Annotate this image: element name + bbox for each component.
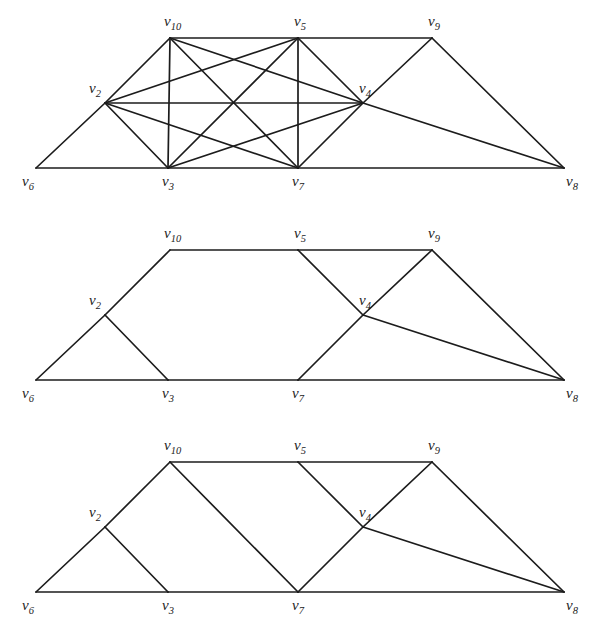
graph-top-svg: v6v3v7v8v2v4v10v5v9 — [0, 0, 595, 210]
vertex-label-v3-bottom: v3 — [162, 597, 174, 616]
graph-edge-v5-v4 — [298, 250, 363, 315]
graph-edge-v10-v3 — [168, 38, 170, 168]
graph-panel-top: v6v3v7v8v2v4v10v5v9 — [0, 0, 595, 210]
vertex-label-v8-top: v8 — [566, 173, 579, 192]
graph-edge-v5-v4 — [298, 462, 363, 527]
vertex-label-v5-bottom: v5 — [294, 437, 306, 456]
vertex-label-v8-middle: v8 — [566, 385, 579, 404]
vertex-label-v7-bottom: v7 — [292, 597, 305, 616]
graph-edge-v2-v10 — [105, 250, 170, 315]
vertex-label-v3-top: v3 — [162, 173, 174, 192]
vertex-label-v6-middle: v6 — [22, 385, 35, 404]
vertex-label-v7-middle: v7 — [292, 385, 305, 404]
graph-bottom-svg: v6v3v7v8v2v4v10v5v9 — [0, 424, 595, 634]
graph-edge-v4-v9 — [363, 38, 432, 103]
graph-edge-v5-v4 — [298, 38, 363, 103]
vertex-label-v3-middle: v3 — [162, 385, 174, 404]
graph-middle-edges — [36, 250, 564, 380]
vertex-label-v2-top: v2 — [89, 80, 102, 99]
vertex-label-v6-top: v6 — [22, 173, 35, 192]
figure-stack: v6v3v7v8v2v4v10v5v9 v6v3v7v8v2v4v10v5v9 … — [0, 0, 595, 635]
graph-edge-v10-v7 — [170, 462, 298, 592]
vertex-label-v10-top: v10 — [164, 13, 182, 32]
vertex-label-v4-bottom: v4 — [359, 504, 372, 523]
vertex-label-v9-bottom: v9 — [428, 437, 441, 456]
graph-panel-bottom: v6v3v7v8v2v4v10v5v9 — [0, 424, 595, 634]
graph-edge-v6-v2 — [36, 103, 105, 168]
graph-bottom-edges — [36, 462, 564, 592]
graph-edge-v2-v10 — [105, 462, 170, 527]
graph-edge-v4-v9 — [363, 462, 432, 527]
graph-edge-v4-v8 — [363, 103, 564, 168]
graph-edge-v3-v4 — [168, 103, 363, 168]
graph-edge-v4-v7 — [298, 315, 363, 380]
graph-edge-v4-v7 — [298, 527, 363, 592]
graph-edge-v2-v3 — [105, 527, 168, 592]
graph-panel-middle: v6v3v7v8v2v4v10v5v9 — [0, 212, 595, 422]
vertex-label-v10-middle: v10 — [164, 225, 182, 244]
vertex-label-v6-bottom: v6 — [22, 597, 35, 616]
graph-edge-v4-v8 — [363, 315, 564, 380]
vertex-label-v8-bottom: v8 — [566, 597, 579, 616]
graph-edge-v2-v10 — [105, 38, 170, 103]
graph-edge-v7-v4 — [298, 103, 363, 168]
vertex-label-v9-middle: v9 — [428, 225, 441, 244]
vertex-label-v4-top: v4 — [359, 80, 372, 99]
vertex-label-v2-bottom: v2 — [89, 504, 102, 523]
graph-edge-v6-v2 — [36, 315, 105, 380]
graph-edge-v6-v2 — [36, 527, 105, 592]
graph-edge-v2-v3 — [105, 315, 168, 380]
graph-top-edges — [36, 38, 564, 168]
vertex-label-v5-middle: v5 — [294, 225, 306, 244]
vertex-label-v7-top: v7 — [292, 173, 305, 192]
vertex-label-v2-middle: v2 — [89, 292, 102, 311]
vertex-label-v4-middle: v4 — [359, 292, 372, 311]
graph-edge-v9-v8 — [432, 462, 564, 592]
graph-edge-v9-v8 — [432, 250, 564, 380]
vertex-label-v5-top: v5 — [294, 13, 306, 32]
graph-middle-svg: v6v3v7v8v2v4v10v5v9 — [0, 212, 595, 422]
graph-edge-v4-v9 — [363, 250, 432, 315]
graph-edge-v9-v8 — [432, 38, 564, 168]
vertex-label-v9-top: v9 — [428, 13, 441, 32]
vertex-label-v10-bottom: v10 — [164, 437, 182, 456]
graph-edge-v4-v8 — [363, 527, 564, 592]
